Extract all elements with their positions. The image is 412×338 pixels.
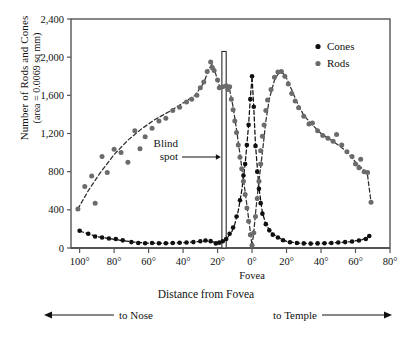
data-point (253, 144, 258, 149)
fovea-label: Fovea (239, 270, 265, 281)
data-point (107, 236, 112, 241)
data-point (241, 179, 246, 184)
data-point (255, 196, 260, 201)
legend-marker-rods (315, 61, 320, 66)
rods-cones-scatter-plot: 04008001,2001,6002,0002,400 100°80°60°40… (0, 0, 412, 300)
data-point (119, 150, 124, 155)
data-point (212, 68, 217, 73)
data-point (177, 105, 182, 110)
y-tick-label: 0 (59, 243, 64, 254)
data-point (194, 93, 199, 98)
x-axis-ticks: 100°80°60°40°20°0°20°40°60°80°Fovea (70, 248, 398, 281)
data-point (198, 239, 203, 244)
data-point (301, 114, 306, 119)
data-point (310, 121, 315, 126)
data-point (343, 240, 348, 245)
data-point (289, 91, 294, 96)
y-tick-label: 2,000 (40, 52, 64, 63)
data-point (231, 107, 236, 112)
data-point (288, 240, 293, 245)
plot-frame (71, 19, 390, 248)
data-point (301, 241, 306, 246)
data-point (276, 235, 281, 240)
data-point (143, 134, 148, 139)
data-point (255, 169, 260, 174)
data-point (322, 241, 327, 246)
blind-spot-band (222, 51, 226, 248)
x-tick-label: 60° (141, 256, 156, 267)
data-point (325, 136, 330, 141)
data-point (356, 165, 361, 170)
data-point (358, 157, 363, 162)
data-point (264, 222, 269, 227)
y-tick-label: 2,400 (40, 14, 64, 25)
data-point (269, 87, 274, 92)
direction-row: to Nose to Temple (0, 308, 412, 328)
data-point (205, 69, 210, 74)
data-point (120, 238, 125, 243)
data-point (246, 219, 251, 224)
chart-page: Number of Rods and Cones (area = 0.0069 … (0, 0, 412, 338)
data-point (244, 205, 249, 210)
blind-spot-annotation: Blindspot (154, 137, 221, 162)
legend-label-rods: Rods (327, 57, 350, 69)
y-axis-ticks: 04008001,2001,6002,0002,400 (40, 14, 71, 254)
data-point (82, 184, 87, 189)
y-tick-label: 400 (48, 204, 64, 215)
data-point (215, 78, 220, 83)
to-temple-label: to Temple (273, 308, 317, 322)
data-point (170, 108, 175, 113)
data-point (243, 162, 248, 167)
data-point (75, 206, 80, 211)
blind-spot-arrow-icon (216, 154, 221, 160)
data-point (227, 231, 232, 236)
data-point (281, 238, 286, 243)
data-point (224, 237, 229, 242)
data-point (201, 79, 206, 84)
y-tick-label: 1,600 (40, 90, 64, 101)
data-point (334, 132, 339, 137)
data-point (156, 119, 161, 124)
data-point (250, 243, 255, 248)
data-point (132, 128, 137, 133)
data-point (136, 241, 141, 246)
data-point (260, 134, 265, 139)
rod-fit-curve-temporal (252, 71, 371, 246)
data-point (331, 139, 336, 144)
data-point (203, 238, 208, 243)
x-tick-label: 60° (348, 256, 363, 267)
data-point (236, 142, 241, 147)
data-point (251, 104, 256, 109)
data-point (170, 241, 175, 246)
x-tick-label: 0° (247, 256, 256, 267)
data-point (265, 98, 270, 103)
blind-spot-label-line2: spot (160, 150, 178, 162)
data-point (272, 75, 277, 80)
data-point (256, 179, 261, 184)
x-tick-label: 20° (279, 256, 294, 267)
data-point (308, 241, 313, 246)
data-point (89, 173, 94, 178)
to-nose-label: to Nose (119, 308, 153, 322)
data-point (245, 143, 250, 148)
data-point (241, 173, 246, 178)
data-point (227, 84, 232, 89)
data-point (258, 148, 263, 153)
data-point (184, 240, 189, 245)
data-point (239, 166, 244, 171)
legend-marker-cones (315, 44, 320, 49)
data-point (293, 99, 298, 104)
x-axis-title: Distance from Fovea (0, 288, 412, 300)
data-point (86, 231, 91, 236)
data-point (238, 198, 243, 203)
data-point (208, 239, 213, 244)
data-point (105, 170, 110, 175)
legend: ConesRods (315, 40, 354, 69)
data-point (260, 211, 265, 216)
right-arrow-icon (320, 308, 392, 322)
data-point (100, 235, 105, 240)
data-point (282, 74, 287, 79)
data-point (367, 234, 372, 239)
data-point (350, 239, 355, 244)
x-tick-label: 100° (70, 256, 90, 267)
